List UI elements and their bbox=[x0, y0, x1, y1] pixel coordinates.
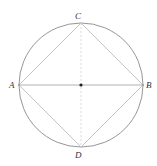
label-a: A bbox=[8, 80, 15, 90]
vertex-a-dot bbox=[18, 84, 20, 86]
vertex-b-dot bbox=[142, 84, 144, 86]
label-c: C bbox=[75, 11, 82, 21]
center-point bbox=[79, 83, 82, 86]
side-da bbox=[19, 85, 81, 147]
side-bd bbox=[81, 85, 143, 147]
label-d: D bbox=[74, 150, 82, 160]
diagram-canvas: A B C D bbox=[0, 0, 157, 166]
label-b: B bbox=[146, 80, 152, 90]
side-cb bbox=[81, 23, 143, 85]
side-ac bbox=[19, 23, 81, 85]
